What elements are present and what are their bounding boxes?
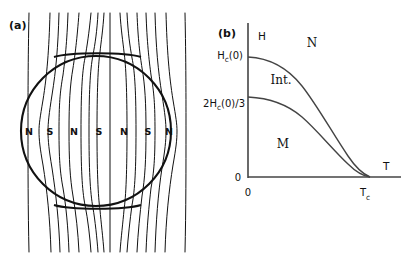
domain-label: N — [120, 126, 128, 137]
domain-label: S — [96, 126, 103, 137]
y-tick-hc0-tail: (0) — [229, 50, 243, 61]
x-axis-label: T — [382, 160, 390, 172]
domain-label: N — [25, 126, 33, 137]
figure-root: (a) — [0, 0, 411, 263]
domain-labels-group: N S N S N S N — [25, 126, 173, 137]
x-tick-tc-sub: c — [366, 193, 370, 202]
field-line — [59, 13, 69, 252]
x-tick-label-zero: 0 — [245, 187, 251, 198]
domain-label: N — [165, 126, 173, 137]
x-tick-label-tc: Tc — [359, 187, 370, 202]
panel-a: (a) — [0, 0, 205, 263]
y-tick-2hc0-tail: (0)/3 — [221, 98, 245, 109]
region-label-intermediate: Int. — [270, 73, 291, 87]
y-tick-2hc0-main: 2H — [203, 98, 217, 109]
region-label-meissner: M — [277, 137, 289, 151]
domain-label: S — [145, 126, 152, 137]
y-tick-label-hc0: Hc(0) — [217, 50, 243, 64]
panel-a-diagram: N S N S N S N — [0, 0, 205, 263]
y-tick-label-2hc0over3: 2Hc(0)/3 — [203, 98, 245, 112]
region-label-normal: N — [307, 36, 318, 50]
curve-hc-lower — [248, 97, 370, 177]
y-tick-hc0-main: H — [217, 50, 225, 61]
y-tick-label-zero: 0 — [235, 172, 241, 183]
field-line — [127, 13, 136, 252]
domain-label: S — [47, 126, 54, 137]
field-line — [185, 13, 186, 252]
phase-diagram: H T Hc(0) 2Hc(0)/3 0 0 Tc — [205, 0, 411, 263]
curve-hc-upper — [248, 57, 370, 177]
domain-label: N — [70, 126, 78, 137]
panel-b: (b) H T Hc(0) 2Hc(0)/3 0 0 Tc — [205, 0, 411, 263]
y-axis-label: H — [258, 30, 266, 42]
